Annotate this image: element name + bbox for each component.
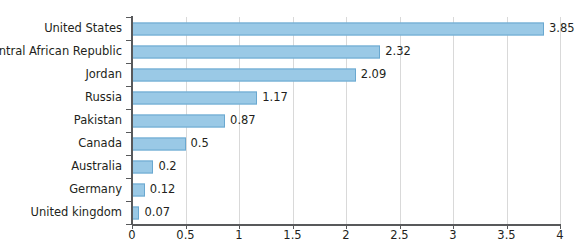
y-tick-mark <box>126 178 132 179</box>
bar <box>132 68 356 81</box>
category-label: Germany <box>0 178 126 201</box>
bar-value-label: 1.17 <box>262 92 288 104</box>
category-label: United kingdom <box>0 201 126 224</box>
category-label: United States <box>0 17 126 40</box>
x-tick-label: 3.5 <box>497 230 515 242</box>
bar-row: 2.09 <box>132 63 560 86</box>
category-label-text: United States <box>44 23 126 35</box>
bar-value-label: 0.2 <box>158 161 176 173</box>
bar-row: 0.87 <box>132 109 560 132</box>
category-label-text: Canada <box>78 138 126 150</box>
y-axis-line <box>131 16 133 225</box>
category-label: Russia <box>0 86 126 109</box>
category-label-text: Jordan <box>85 69 126 81</box>
y-tick-mark <box>126 201 132 202</box>
x-tick-label: 1 <box>235 230 242 242</box>
bar <box>132 91 257 104</box>
bar-row: 1.17 <box>132 86 560 109</box>
bar <box>132 22 544 35</box>
bar-row: 0.07 <box>132 201 560 224</box>
bar <box>132 137 186 150</box>
gridline <box>560 17 561 224</box>
bar-value-label: 0.87 <box>230 115 256 127</box>
bar <box>132 183 145 196</box>
y-tick-mark <box>126 40 132 41</box>
x-tick-label: 0.5 <box>176 230 194 242</box>
bar-row: 0.2 <box>132 155 560 178</box>
x-tick-label: 2 <box>342 230 349 242</box>
y-tick-mark <box>126 63 132 64</box>
bar-row: 0.12 <box>132 178 560 201</box>
x-tick-label: 2.5 <box>390 230 408 242</box>
category-label: Canada <box>0 132 126 155</box>
y-tick-mark <box>126 17 132 18</box>
x-tick-label: 4 <box>556 230 563 242</box>
bar-value-label: 0.12 <box>150 184 176 196</box>
bar-row: 0.5 <box>132 132 560 155</box>
y-tick-mark <box>126 132 132 133</box>
bar <box>132 160 153 173</box>
category-label: Jordan <box>0 63 126 86</box>
x-tick-label: 1.5 <box>283 230 301 242</box>
category-label: Australia <box>0 155 126 178</box>
y-tick-mark <box>126 109 132 110</box>
bar-value-label: 0.07 <box>144 207 170 219</box>
x-tick-label: 3 <box>449 230 456 242</box>
bar-value-label: 3.85 <box>549 23 575 35</box>
x-tick-label: 0 <box>128 230 135 242</box>
category-label-text: Central African Republic <box>0 46 126 58</box>
bar-row: 2.32 <box>132 40 560 63</box>
category-label-text: Australia <box>71 161 126 173</box>
horizontal-bar-chart: United StatesCentral African RepublicJor… <box>0 0 581 247</box>
bar-row: 3.85 <box>132 17 560 40</box>
bar-value-label: 2.32 <box>385 46 411 58</box>
bar <box>132 114 225 127</box>
bar <box>132 206 139 219</box>
category-label-text: United kingdom <box>31 207 126 219</box>
category-label: Pakistan <box>0 109 126 132</box>
bar-value-label: 0.5 <box>191 138 209 150</box>
plot-area: 3.852.322.091.170.870.50.20.120.07 <box>132 17 560 224</box>
category-label: Central African Republic <box>0 40 126 63</box>
category-label-text: Germany <box>69 184 126 196</box>
category-label-text: Pakistan <box>74 115 126 127</box>
bar-value-label: 2.09 <box>361 69 387 81</box>
category-label-text: Russia <box>85 92 126 104</box>
y-tick-mark <box>126 86 132 87</box>
bar <box>132 45 380 58</box>
y-tick-mark <box>126 155 132 156</box>
